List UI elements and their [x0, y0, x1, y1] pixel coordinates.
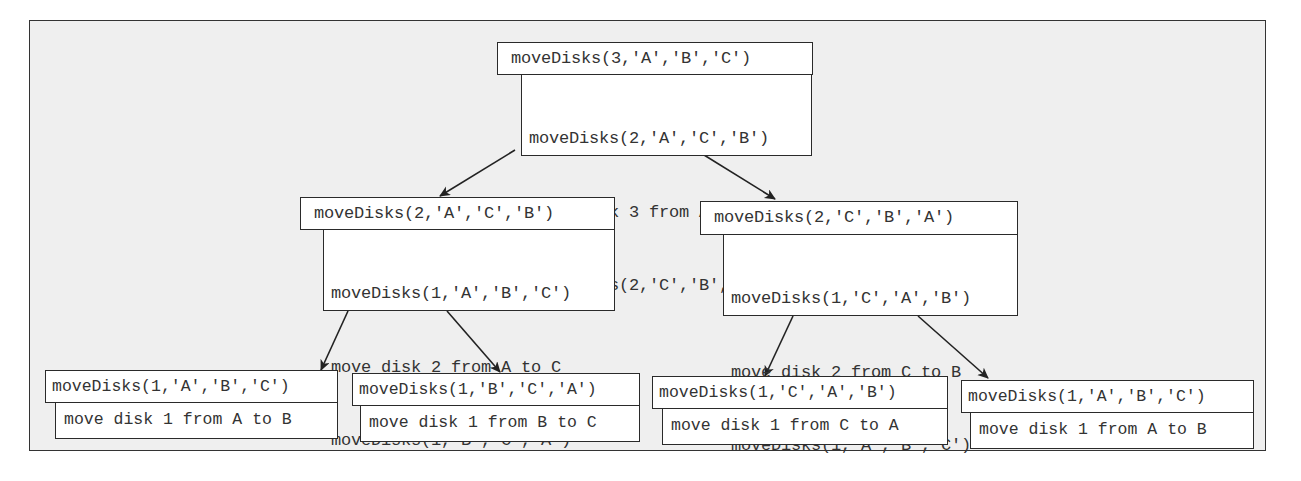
- root-call: moveDisks(3,'A','B','C'): [497, 42, 813, 75]
- leaf-4-call: moveDisks(1,'A','B','C'): [961, 380, 1254, 413]
- root-steps: moveDisks(2,'A','C','B') move disk 3 fro…: [521, 74, 812, 156]
- left-step-1: moveDisks(1,'A','B','C'): [331, 282, 614, 307]
- left-node-call: moveDisks(2,'A','C','B'): [300, 197, 615, 230]
- leaf-2-step: move disk 1 from B to C: [360, 405, 640, 442]
- leaf-3-step: move disk 1 from C to A: [662, 408, 948, 445]
- leaf-1-call: moveDisks(1,'A','B','C'): [45, 370, 338, 403]
- right-node-call: moveDisks(2,'C','B','A'): [700, 201, 1018, 235]
- root-step-1: moveDisks(2,'A','C','B'): [529, 127, 811, 152]
- right-step-1: moveDisks(1,'C','A','B'): [731, 287, 1017, 312]
- left-node-steps: moveDisks(1,'A','B','C') move disk 2 fro…: [323, 229, 615, 311]
- right-node-steps: moveDisks(1,'C','A','B') move disk 2 fro…: [723, 234, 1018, 316]
- arrow-root-to-left: [440, 150, 515, 196]
- leaf-2-call: moveDisks(1,'B','C','A'): [352, 373, 640, 406]
- leaf-4-step: move disk 1 from A to B: [970, 412, 1254, 449]
- leaf-1-step: move disk 1 from A to B: [55, 402, 338, 439]
- leaf-3-call: moveDisks(1,'C','A','B'): [652, 376, 948, 409]
